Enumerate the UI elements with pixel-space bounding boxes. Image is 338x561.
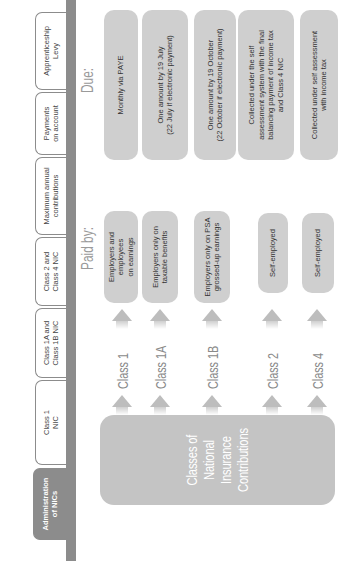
classes-of-nic-box: Classes of National Insurance Contributi… — [100, 415, 335, 505]
class-1b-due: One amount by 19 October (22 October if … — [194, 10, 236, 160]
class-1b-paid-by: Employers only on PSA grossed-up earning… — [194, 211, 230, 303]
arrow-right-icon — [108, 395, 136, 415]
class-4-due: Collected under self assessment with inc… — [300, 10, 338, 160]
tab-class-1-nic[interactable]: Class 1 NIC — [35, 380, 66, 465]
class-1b-label: Class 1B — [197, 329, 227, 389]
arrow-right-icon — [146, 395, 174, 415]
arrow-right-icon — [198, 395, 226, 415]
class-1-due: Monthly via PAYE — [104, 10, 138, 160]
class-1-paid-by: Employers and employees on earnings — [104, 211, 138, 303]
class-4-label: Class 4 — [302, 339, 332, 389]
class-1a-label: Class 1A — [145, 329, 175, 389]
tab-apprenticeship-levy[interactable]: Apprenticeship Levy — [35, 12, 66, 90]
nic-diagram: Administration of NICs Class 1 NIC Class… — [0, 0, 338, 561]
class-2-label: Class 2 — [257, 339, 287, 389]
classes-of-nic-label: Classes of National Insurance Contributi… — [184, 428, 252, 492]
tab-administration-of-nics[interactable]: Administration of NICs — [33, 468, 66, 540]
arrow-right-icon — [258, 309, 286, 329]
class-1a-paid-by: Employers only on taxable benefits — [142, 211, 178, 303]
arrow-right-icon — [303, 395, 331, 415]
class-1a-due: One amount by 19 July (22 July if electr… — [142, 10, 188, 160]
tab-maximum-annual-contributions[interactable]: Maximum annual contributions — [35, 157, 66, 235]
tab-strip — [66, 0, 76, 561]
class-4-paid-by: Self-employed — [302, 213, 334, 293]
arrow-right-icon — [258, 395, 286, 415]
tab-class-2-4-nic[interactable]: Class 2 and Class 4 NIC — [35, 237, 66, 306]
class-1-label: Class 1 — [107, 339, 137, 389]
class-2-paid-by: Self-employed — [258, 213, 288, 293]
paid-by-header: Paid by: — [78, 209, 98, 270]
arrow-right-icon — [303, 309, 331, 329]
tab-class-1a-1b-nic[interactable]: Class 1A and Class 1B NIC — [35, 308, 66, 378]
tab-payments-on-account[interactable]: Payments on account — [35, 92, 66, 155]
arrow-right-icon — [198, 309, 226, 329]
arrow-right-icon — [108, 309, 136, 329]
due-header: Due: — [78, 57, 98, 93]
arrow-right-icon — [146, 309, 174, 329]
class-2-due: Collected under the self assessment syst… — [238, 10, 294, 160]
